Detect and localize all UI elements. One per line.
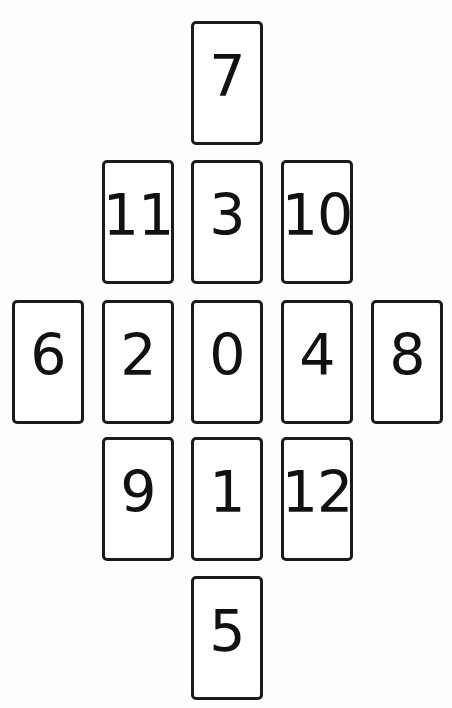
card-11[interactable]: 11 (102, 160, 174, 284)
card-label: 8 (389, 327, 424, 384)
card-label: 0 (209, 327, 244, 384)
card-label: 5 (209, 603, 244, 660)
card-6[interactable]: 6 (12, 300, 84, 424)
card-8[interactable]: 8 (371, 300, 443, 424)
card-7[interactable]: 7 (191, 21, 263, 145)
card-9[interactable]: 9 (102, 437, 174, 561)
card-1[interactable]: 1 (191, 437, 263, 561)
card-label: 11 (103, 187, 174, 244)
card-grid: 7 11 3 10 6 2 0 4 8 9 1 12 5 (0, 0, 452, 708)
card-label: 7 (209, 48, 244, 105)
card-4[interactable]: 4 (281, 300, 353, 424)
card-label: 3 (209, 187, 244, 244)
card-label: 10 (282, 187, 353, 244)
card-0[interactable]: 0 (191, 300, 263, 424)
card-12[interactable]: 12 (281, 437, 353, 561)
card-label: 12 (282, 464, 353, 521)
card-label: 2 (120, 327, 155, 384)
card-label: 4 (299, 327, 334, 384)
card-label: 6 (30, 327, 65, 384)
card-label: 1 (209, 464, 244, 521)
card-5[interactable]: 5 (191, 576, 263, 700)
card-3[interactable]: 3 (191, 160, 263, 284)
card-10[interactable]: 10 (281, 160, 353, 284)
card-label: 9 (120, 464, 155, 521)
card-2[interactable]: 2 (102, 300, 174, 424)
